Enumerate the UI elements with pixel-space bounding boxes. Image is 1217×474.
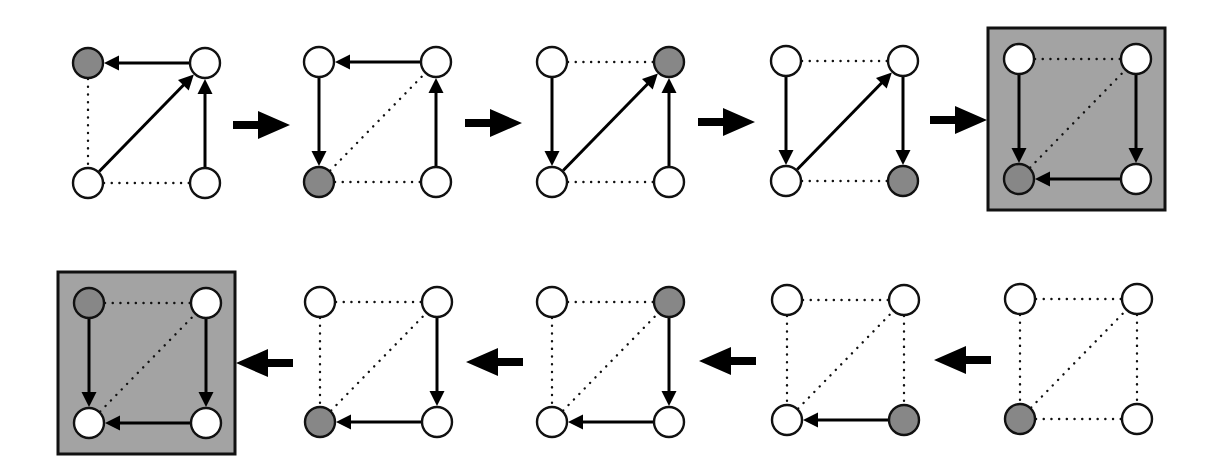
right-arrow-shape (233, 111, 290, 139)
directed-edge-arrow (198, 79, 213, 167)
graph-state-panel-bottom-3 (519, 269, 701, 455)
node-tr (191, 288, 221, 318)
arrowhead-icon (568, 415, 583, 430)
node-highlighted-tr (654, 47, 684, 77)
node-highlighted-tl (73, 48, 103, 78)
directed-edge-arrow (797, 72, 892, 169)
directed-edge-arrow (312, 78, 327, 166)
right-arrow-shape (465, 109, 522, 137)
node-highlighted-br (888, 166, 918, 196)
left-arrow-shape (934, 346, 991, 374)
node-br (1121, 164, 1151, 194)
graph-state-panel-top-2 (286, 29, 468, 215)
node-br (422, 407, 452, 437)
arrowhead-icon (662, 78, 677, 93)
node-tl (1004, 44, 1034, 74)
node-highlighted-bl (1004, 164, 1034, 194)
node-tl (1005, 284, 1035, 314)
arrowhead-icon (198, 79, 213, 94)
node-highlighted-bl (305, 407, 335, 437)
directed-edge-arrow (99, 74, 194, 171)
left-arrow-icon (699, 346, 757, 376)
node-tl (537, 47, 567, 77)
node-bl (772, 405, 802, 435)
dotted-edge (331, 313, 426, 410)
node-bl (537, 167, 567, 197)
graph-state-panel-bottom-5 (987, 266, 1169, 452)
edge-line (563, 83, 648, 170)
node-highlighted-tl (74, 288, 104, 318)
edge-line (99, 84, 184, 171)
arrowhead-icon (779, 150, 794, 165)
node-br (1122, 404, 1152, 434)
node-tr (1121, 44, 1151, 74)
left-arrow-icon (934, 345, 992, 375)
directed-edge-arrow (335, 55, 420, 70)
left-arrow-icon (466, 347, 524, 377)
dotted-edge (1031, 310, 1126, 407)
directed-edge-arrow (563, 73, 658, 170)
node-tl (304, 47, 334, 77)
graph-state-panel-top-1 (55, 30, 237, 216)
node-highlighted-bl (304, 167, 334, 197)
directed-edge-arrow (429, 78, 444, 166)
left-arrow-shape (466, 348, 523, 376)
node-tr (190, 48, 220, 78)
right-arrow-icon (465, 108, 523, 138)
graph-state-panel-bottom-1-highlighted (56, 270, 238, 456)
directed-edge-arrow (896, 77, 911, 165)
node-br (190, 168, 220, 198)
graph-state-panel-bottom-4 (754, 267, 936, 453)
node-tr (422, 287, 452, 317)
left-arrow-shape (236, 349, 293, 377)
node-tr (1122, 284, 1152, 314)
directed-edge-arrow (803, 413, 888, 428)
arrowhead-icon (430, 391, 445, 406)
node-tl (537, 287, 567, 317)
arrowhead-icon (312, 151, 327, 166)
node-br (654, 167, 684, 197)
node-tl (772, 285, 802, 315)
right-arrow-shape (930, 106, 987, 134)
node-tr (421, 47, 451, 77)
node-highlighted-tr (654, 287, 684, 317)
dotted-edge (330, 73, 425, 170)
node-br (421, 167, 451, 197)
graph-state-panel-top-5-highlighted (986, 26, 1168, 212)
right-arrow-shape (698, 108, 755, 136)
arrowhead-icon (896, 150, 911, 165)
node-bl (771, 166, 801, 196)
graph-state-panel-bottom-2 (287, 269, 469, 455)
dotted-edge (563, 313, 658, 410)
graph-state-panel-top-3 (519, 29, 701, 215)
directed-edge-arrow (662, 318, 677, 406)
directed-edge-arrow (104, 56, 189, 71)
arrowhead-icon (803, 413, 818, 428)
right-arrow-icon (930, 105, 988, 135)
directed-edge-arrow (336, 415, 421, 430)
arrowhead-icon (429, 78, 444, 93)
node-tr (888, 46, 918, 76)
arrowhead-icon (336, 415, 351, 430)
node-highlighted-br (889, 405, 919, 435)
directed-edge-arrow (779, 77, 794, 165)
dotted-edge (798, 311, 893, 408)
directed-edge-arrow (430, 318, 445, 406)
right-arrow-icon (233, 110, 291, 140)
node-br (654, 407, 684, 437)
node-tr (889, 285, 919, 315)
node-tl (771, 46, 801, 76)
directed-edge-arrow (545, 78, 560, 166)
node-highlighted-bl (1005, 404, 1035, 434)
left-arrow-shape (699, 347, 756, 375)
directed-edge-arrow (568, 415, 653, 430)
graph-state-panel-top-4 (753, 28, 935, 214)
edge-line (797, 82, 882, 169)
directed-edge-arrow (662, 78, 677, 166)
arrowhead-icon (545, 151, 560, 166)
left-arrow-icon (236, 348, 294, 378)
node-bl (537, 407, 567, 437)
right-arrow-icon (698, 107, 756, 137)
arrowhead-icon (662, 391, 677, 406)
node-br (191, 408, 221, 438)
